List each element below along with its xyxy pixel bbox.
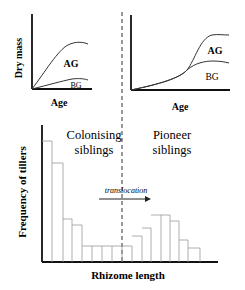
- translocation-label: translocation: [105, 186, 148, 195]
- ag-label: AG: [208, 45, 223, 56]
- ag-label: AG: [64, 58, 79, 69]
- top-right-panel: AG BG Age: [131, 15, 230, 112]
- top-left-panel: Dry mass AG BG Age: [13, 14, 92, 108]
- histogram-bars: [42, 141, 200, 262]
- x-axis-label: Age: [172, 101, 189, 112]
- x-axis-label: Rhizome length: [91, 269, 165, 281]
- y-axis-label: Frequency of tillers: [16, 146, 28, 238]
- colonising-label-line1: Colonising: [67, 128, 123, 142]
- pioneer-label-line2: siblings: [153, 143, 192, 157]
- bg-label: BG: [70, 81, 81, 90]
- figure-canvas: Dry mass AG BG Age AG BG Age: [0, 0, 245, 290]
- bg-label: BG: [205, 72, 218, 82]
- y-axis-label: Dry mass: [13, 38, 24, 78]
- arrowhead-icon: [145, 196, 151, 202]
- colonising-label-line2: siblings: [75, 143, 114, 157]
- pioneer-label-line1: Pioneer: [153, 128, 192, 142]
- x-axis-label: Age: [51, 97, 68, 108]
- bottom-panel: Frequency of tillers Colonising siblings…: [16, 125, 218, 281]
